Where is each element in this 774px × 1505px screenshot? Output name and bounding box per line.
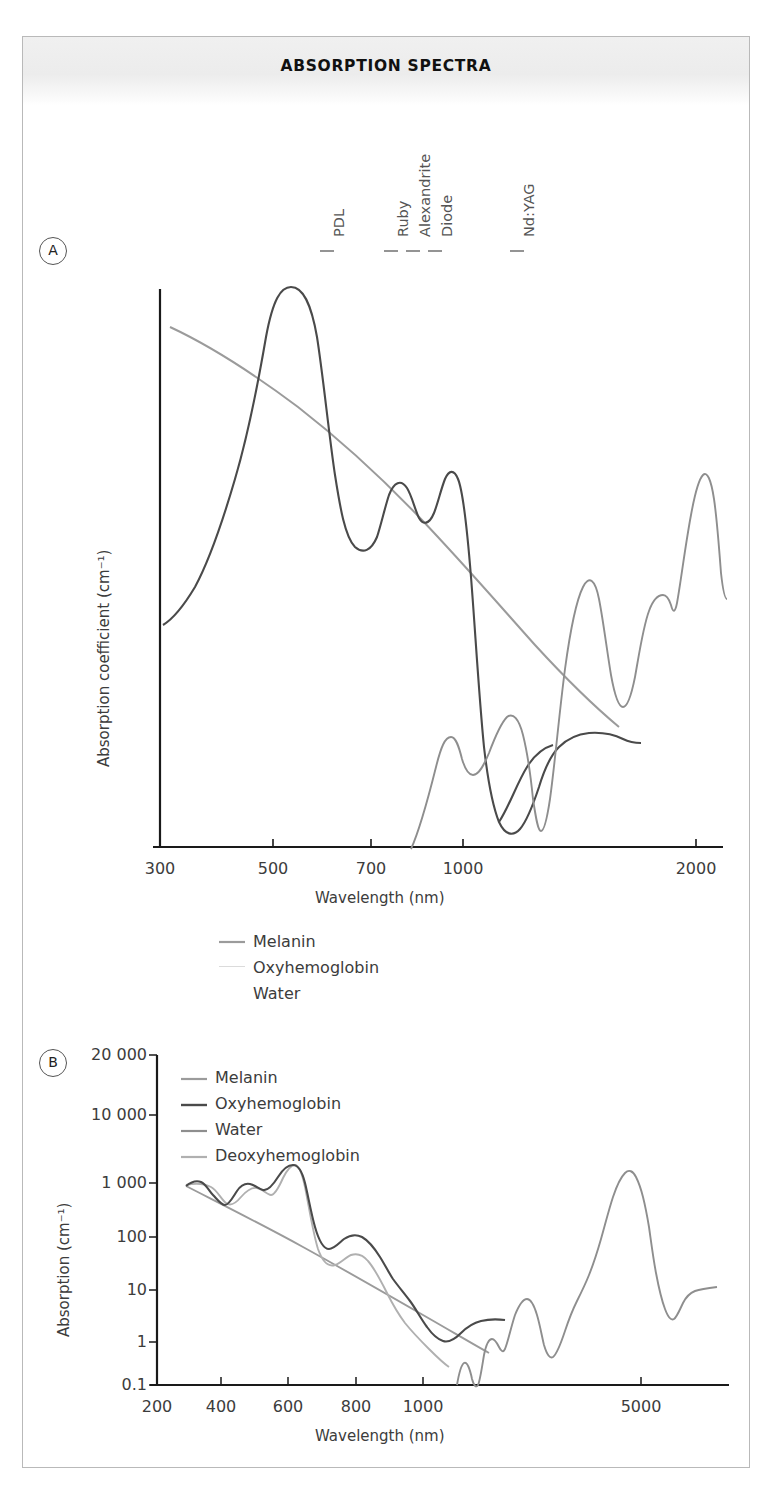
panel-b-ytick-0.1: 0.1 bbox=[51, 1375, 147, 1394]
curve-oxyhemoglobin-a-nir bbox=[499, 745, 553, 822]
panel-a-xtick-500: 500 bbox=[243, 859, 303, 878]
panel-a-x-ticks bbox=[160, 839, 696, 847]
legend-label-water-a: Water bbox=[253, 984, 300, 1003]
curve-water-b bbox=[457, 1171, 717, 1386]
panel-b-ytick-10: 10 bbox=[51, 1280, 147, 1299]
figure-frame: ABSORPTION SPECTRA A Absorption coeffici… bbox=[22, 36, 750, 1468]
panel-b-xtick-1000: 1000 bbox=[386, 1397, 460, 1416]
legend-label-melanin-a: Melanin bbox=[253, 932, 316, 951]
panel-a-xtick-700: 700 bbox=[341, 859, 401, 878]
legend-label-oxyhemoglobin-b: Oxyhemoglobin bbox=[215, 1094, 341, 1113]
panel-b-ytick-10000: 10 000 bbox=[51, 1105, 147, 1124]
figure-title: ABSORPTION SPECTRA bbox=[23, 57, 749, 75]
curve-deoxyhemoglobin-b bbox=[186, 1165, 449, 1367]
curve-oxyhemoglobin-b bbox=[186, 1165, 505, 1342]
legend-label-oxyhemoglobin-a: Oxyhemoglobin bbox=[253, 958, 379, 977]
panel-a-xtick-2000: 2000 bbox=[659, 859, 733, 878]
legend-label-water-b: Water bbox=[215, 1120, 262, 1139]
panel-b-xtick-5000: 5000 bbox=[604, 1397, 678, 1416]
panel-a-xtick-1000: 1000 bbox=[426, 859, 500, 878]
curve-oxyhemoglobin-a bbox=[163, 287, 641, 834]
panel-b-xtick-800: 800 bbox=[326, 1397, 386, 1416]
curve-water-a bbox=[411, 474, 727, 849]
panel-b-xtick-200: 200 bbox=[127, 1397, 187, 1416]
legend-label-melanin-b: Melanin bbox=[215, 1068, 278, 1087]
panel-b-ytick-100: 100 bbox=[51, 1227, 147, 1246]
panel-b-ytick-20000: 20 000 bbox=[51, 1045, 147, 1064]
panel-a-xtick-300: 300 bbox=[130, 859, 190, 878]
panel-a-x-axis-title: Wavelength (nm) bbox=[315, 889, 445, 907]
curve-melanin-a bbox=[170, 327, 619, 727]
legend-label-deoxyhemoglobin-b: Deoxyhemoglobin bbox=[215, 1146, 360, 1165]
panel-a-legend bbox=[219, 942, 245, 967]
panel-b-y-ticks bbox=[149, 1055, 157, 1385]
panel-b-xtick-600: 600 bbox=[258, 1397, 318, 1416]
panel-b-x-ticks bbox=[157, 1377, 641, 1385]
panel-b-legend bbox=[181, 1079, 207, 1157]
panel-b-ytick-1000: 1 000 bbox=[51, 1173, 147, 1192]
panel-b-ytick-1: 1 bbox=[51, 1332, 147, 1351]
panel-b-xtick-400: 400 bbox=[191, 1397, 251, 1416]
curve-melanin-b bbox=[186, 1186, 489, 1353]
panel-b-x-axis-title: Wavelength (nm) bbox=[315, 1427, 445, 1445]
panel-a-plot bbox=[23, 207, 751, 967]
